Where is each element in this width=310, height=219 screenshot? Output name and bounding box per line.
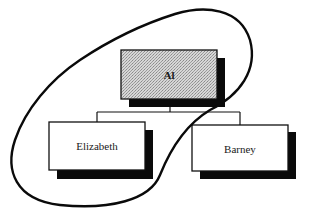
node-al-label: Al	[164, 69, 175, 81]
node-elizabeth-label: Elizabeth	[76, 140, 118, 152]
node-elizabeth: Elizabeth	[49, 122, 153, 179]
org-chart-diagram: Al Elizabeth Barney	[0, 0, 310, 219]
node-barney-label: Barney	[224, 143, 256, 155]
node-barney: Barney	[192, 125, 296, 179]
node-al: Al	[121, 50, 225, 107]
